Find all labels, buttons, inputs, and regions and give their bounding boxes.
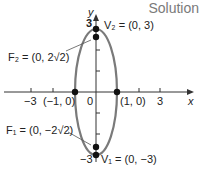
x-tick-label-neg3: −3 <box>24 95 37 107</box>
x-tick-label-0: 0 <box>87 95 93 107</box>
f2-leader-line <box>66 40 91 51</box>
v1-label: V₁ = (0, −3) <box>101 153 157 165</box>
v2-label: V₂ = (0, 3) <box>104 19 154 31</box>
ellipse-diagram: y x 3 −3 −3 (−1, 0) 0 (1, 0) 3 V₂ = (0, … <box>0 0 203 170</box>
y-axis-arrow-icon <box>93 14 99 21</box>
x-tick-label-3: 3 <box>157 95 163 107</box>
vertex-v2-point <box>93 26 99 32</box>
f2-label: F₂ = (0, 2√2) <box>8 51 69 63</box>
f1-label: F₁ = (0, −2√2) <box>6 124 73 136</box>
vertex-v1-point <box>93 152 99 158</box>
focus-f1-point <box>93 144 99 150</box>
x-axis-label: x <box>187 95 194 107</box>
x-tick-label-neg1-point: (−1, 0) <box>43 95 75 107</box>
focus-f2-point <box>93 34 99 40</box>
y-tick-label-3: 3 <box>86 17 92 29</box>
x-tick-label-1-point: (1, 0) <box>120 95 146 107</box>
y-tick-label-neg3: −3 <box>80 153 93 165</box>
